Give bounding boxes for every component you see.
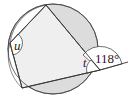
cyclic-quadrilateral-diagram: u t 118° — [0, 0, 133, 105]
label-u: u — [14, 38, 21, 53]
label-118: 118° — [95, 51, 119, 66]
